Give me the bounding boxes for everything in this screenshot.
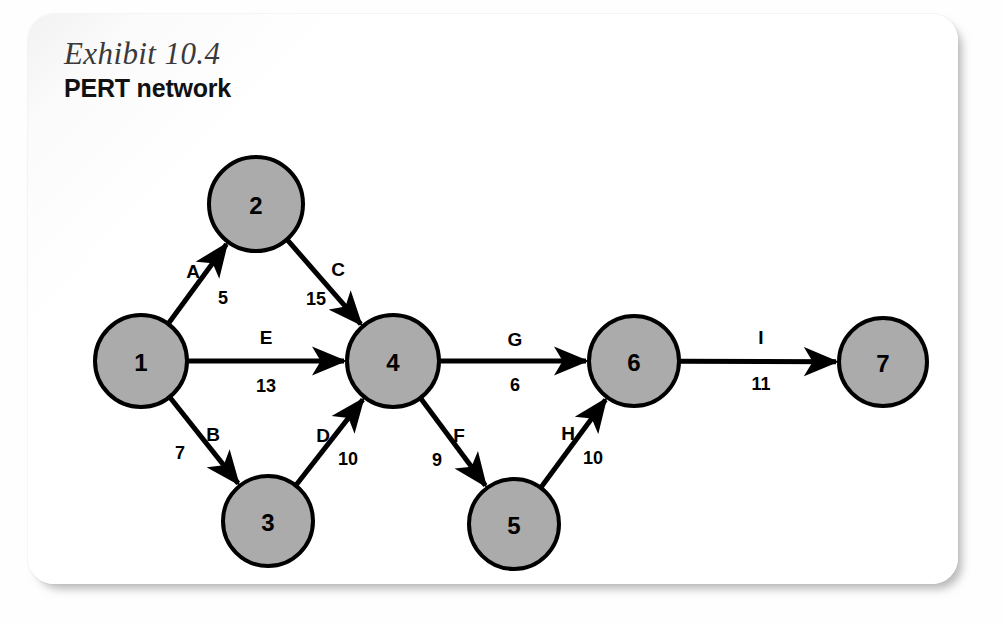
node-6[interactable]: 6 bbox=[589, 316, 679, 406]
edge-label-duration-a: 5 bbox=[218, 288, 228, 308]
node-label-4: 4 bbox=[386, 349, 400, 376]
edge-label-activity-i: I bbox=[758, 327, 763, 348]
edge-label-duration-e: 13 bbox=[256, 376, 276, 396]
edges-layer bbox=[169, 240, 836, 487]
node-label-6: 6 bbox=[627, 349, 640, 376]
node-1[interactable]: 1 bbox=[95, 315, 187, 407]
exhibit-panel: Exhibit 10.4 PERT network 1234567 A5C15E… bbox=[28, 14, 958, 584]
edge-label-activity-e: E bbox=[260, 327, 273, 348]
edge-label-activity-g: G bbox=[508, 329, 523, 350]
edge-label-duration-h: 10 bbox=[583, 448, 603, 468]
node-label-1: 1 bbox=[134, 349, 147, 376]
node-label-7: 7 bbox=[876, 350, 889, 377]
edge-label-duration-g: 6 bbox=[510, 375, 520, 395]
edge-label-duration-d: 10 bbox=[338, 449, 358, 469]
node-7[interactable]: 7 bbox=[839, 318, 927, 406]
edge-label-activity-h: H bbox=[561, 423, 575, 444]
node-4[interactable]: 4 bbox=[347, 315, 439, 407]
edge-labels-layer: A5C15E13B7D10F9H10G6I11 bbox=[175, 259, 771, 471]
edge-a-arrow bbox=[169, 244, 227, 323]
edge-label-activity-a: A bbox=[186, 261, 200, 282]
node-3[interactable]: 3 bbox=[223, 476, 313, 566]
exhibit-panel-inner: Exhibit 10.4 PERT network 1234567 A5C15E… bbox=[28, 14, 958, 584]
edge-b-arrow bbox=[170, 398, 238, 484]
node-label-5: 5 bbox=[507, 512, 520, 539]
edge-label-duration-b: 7 bbox=[175, 443, 185, 463]
edge-label-activity-f: F bbox=[453, 425, 465, 446]
node-2[interactable]: 2 bbox=[209, 157, 303, 251]
edge-c-arrow bbox=[288, 240, 361, 324]
edge-label-duration-i: 11 bbox=[751, 374, 770, 394]
edge-label-activity-d: D bbox=[316, 425, 330, 446]
edge-label-activity-c: C bbox=[331, 259, 345, 280]
screenshot-canvas: Exhibit 10.4 PERT network 1234567 A5C15E… bbox=[0, 0, 1002, 624]
node-5[interactable]: 5 bbox=[469, 479, 559, 569]
edge-label-duration-f: 9 bbox=[432, 450, 442, 470]
pert-network-diagram: 1234567 A5C15E13B7D10F9H10G6I11 bbox=[28, 14, 958, 584]
node-label-2: 2 bbox=[249, 192, 262, 219]
node-label-3: 3 bbox=[261, 509, 274, 536]
edge-label-activity-b: B bbox=[206, 424, 220, 445]
pert-network-svg: 1234567 A5C15E13B7D10F9H10G6I11 bbox=[28, 14, 958, 584]
edge-label-duration-c: 15 bbox=[306, 289, 326, 309]
edge-i-arrow bbox=[680, 361, 836, 362]
